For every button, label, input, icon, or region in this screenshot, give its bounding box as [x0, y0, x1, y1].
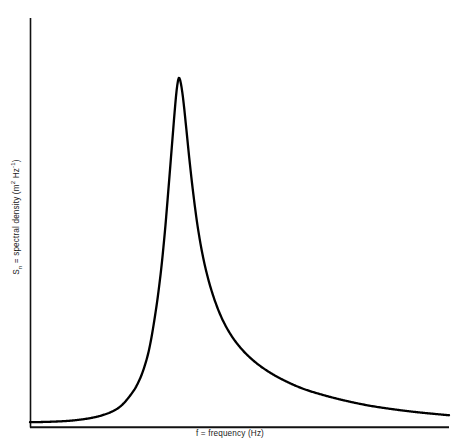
plot-background [0, 0, 452, 444]
y-axis-label-subscript: n [17, 266, 23, 270]
chart-figure: Sn = spectral density (m2 Hz-1) f = freq… [0, 0, 452, 444]
y-axis-label-close-paren: ) [12, 159, 21, 162]
y-axis-label: Sn = spectral density (m2 Hz-1) [13, 87, 21, 347]
y-axis-label-symbol: S [12, 269, 21, 275]
spectral-density-plot [0, 0, 452, 444]
x-axis-label: f = frequency (Hz) [196, 430, 264, 438]
y-axis-label-middle: = spectral density (m [12, 184, 21, 265]
y-axis-label-superscript-inverse: -1 [10, 162, 16, 168]
y-axis-label-superscript-area: 2 [10, 181, 16, 185]
y-axis-label-unit: Hz [12, 168, 21, 181]
